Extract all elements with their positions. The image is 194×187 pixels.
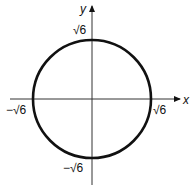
right-intercept-label: √6 [153, 103, 167, 117]
y-axis-label: y [79, 2, 87, 16]
top-intercept-label: √6 [73, 23, 87, 37]
circle-diagram: y x √6 −√6 −√6 √6 [0, 0, 194, 187]
x-axis-label: x [182, 93, 190, 107]
left-intercept-label: −√6 [6, 103, 27, 117]
bottom-intercept-label: −√6 [63, 161, 84, 175]
